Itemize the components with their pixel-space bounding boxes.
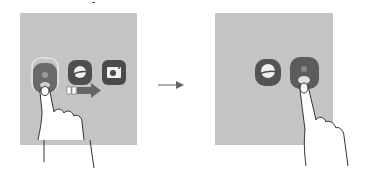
- illustration-canvas-step-2: [0, 0, 376, 179]
- finger-icon: [300, 83, 348, 166]
- internet-browser-icon: [255, 59, 281, 86]
